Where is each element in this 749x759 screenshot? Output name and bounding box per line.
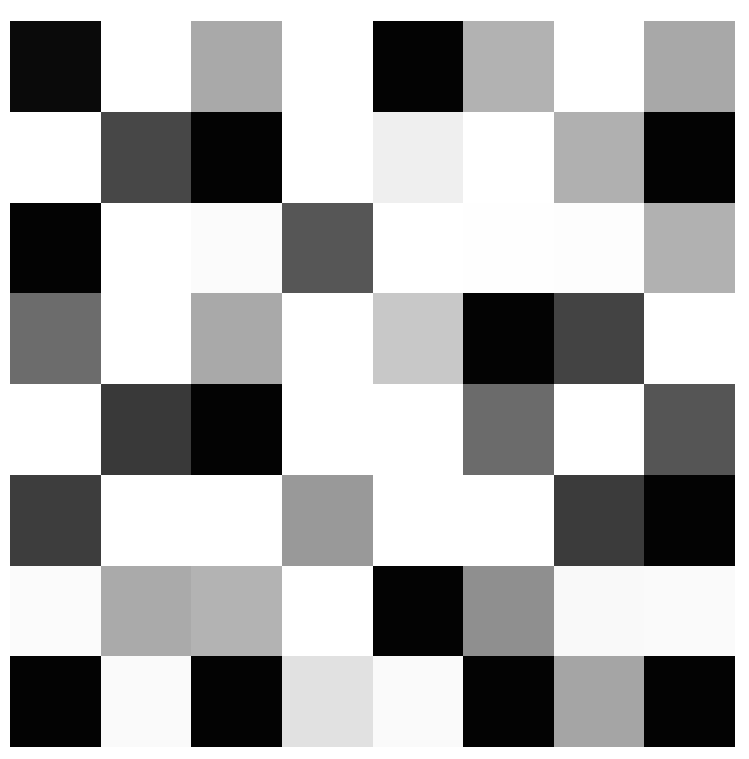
grid-tile xyxy=(644,384,735,475)
grid-tile xyxy=(10,656,101,747)
grid-tile xyxy=(10,293,101,384)
grid-tile xyxy=(282,21,373,112)
grid-tile xyxy=(463,203,554,294)
grid-tile xyxy=(101,21,192,112)
grid-tile xyxy=(463,656,554,747)
grid-tile xyxy=(10,566,101,657)
grid-tile xyxy=(101,566,192,657)
grid-tile xyxy=(10,475,101,566)
grid-tile xyxy=(463,112,554,203)
grid-tile xyxy=(554,203,645,294)
grid-tile xyxy=(282,566,373,657)
grid-tile xyxy=(373,293,464,384)
grid-tile xyxy=(554,475,645,566)
grid-tile xyxy=(554,566,645,657)
grid-tile xyxy=(101,112,192,203)
grid-tile xyxy=(554,384,645,475)
grid-tile xyxy=(463,384,554,475)
grid-tile xyxy=(644,566,735,657)
grid-tile xyxy=(644,475,735,566)
grid-tile xyxy=(101,203,192,294)
grid-tile xyxy=(10,112,101,203)
grid-tile xyxy=(463,566,554,657)
grayscale-tile-grid xyxy=(10,21,735,747)
grid-tile xyxy=(463,293,554,384)
grid-tile xyxy=(191,21,282,112)
grid-tile xyxy=(101,475,192,566)
grid-tile xyxy=(373,112,464,203)
grid-tile xyxy=(373,656,464,747)
grid-tile xyxy=(554,21,645,112)
grid-tile xyxy=(10,203,101,294)
grid-tile xyxy=(282,475,373,566)
grid-tile xyxy=(191,203,282,294)
grid-tile xyxy=(373,203,464,294)
grid-tile xyxy=(463,21,554,112)
grid-tile xyxy=(282,112,373,203)
grid-tile xyxy=(644,21,735,112)
grid-tile xyxy=(373,566,464,657)
grid-tile xyxy=(554,112,645,203)
grid-tile xyxy=(101,656,192,747)
grid-tile xyxy=(282,293,373,384)
grid-tile xyxy=(373,21,464,112)
grid-tile xyxy=(644,656,735,747)
grid-tile xyxy=(101,293,192,384)
grid-tile xyxy=(191,384,282,475)
grid-tile xyxy=(191,566,282,657)
grid-tile xyxy=(373,384,464,475)
grid-tile xyxy=(191,475,282,566)
grid-tile xyxy=(10,21,101,112)
grid-tile xyxy=(373,475,464,566)
grid-tile xyxy=(282,656,373,747)
grid-tile xyxy=(554,293,645,384)
grid-tile xyxy=(191,656,282,747)
grid-tile xyxy=(644,112,735,203)
grid-tile xyxy=(191,293,282,384)
grid-tile xyxy=(644,293,735,384)
grid-tile xyxy=(554,656,645,747)
grid-tile xyxy=(282,203,373,294)
grid-tile xyxy=(10,384,101,475)
grid-tile xyxy=(101,384,192,475)
grid-tile xyxy=(463,475,554,566)
grid-tile xyxy=(191,112,282,203)
grid-tile xyxy=(644,203,735,294)
grid-tile xyxy=(282,384,373,475)
